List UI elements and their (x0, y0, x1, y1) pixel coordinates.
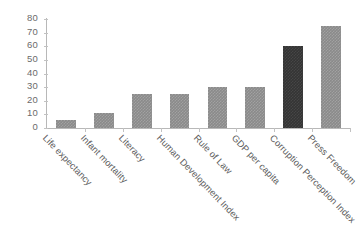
x-axis-tick-mark (274, 128, 275, 132)
x-axis-label: Literacy (116, 133, 146, 164)
bar (170, 94, 190, 128)
x-axis-label: Rule of Law (192, 133, 234, 176)
y-axis-tick-label: 60 (27, 39, 38, 50)
bar (94, 113, 114, 128)
y-axis-tick-label: 40 (27, 67, 38, 78)
x-axis-tick-mark (350, 128, 351, 132)
bar (132, 94, 152, 128)
x-axis-tick-mark (85, 128, 86, 132)
bar-chart: 01020304050607080 Life expectancyInfant … (0, 0, 358, 244)
y-axis-tick-label: 70 (27, 26, 38, 37)
x-axis-tick-mark (123, 128, 124, 132)
y-axis-tick-label: 20 (27, 94, 38, 105)
y-axis-tick-label: 30 (27, 80, 38, 91)
y-axis-tick-mark (44, 128, 48, 129)
bar (321, 26, 341, 128)
x-axis-tick-mark (236, 128, 237, 132)
plot-area (47, 19, 350, 128)
x-axis-tick-mark (312, 128, 313, 132)
bar (208, 87, 228, 128)
x-axis-tick-mark (199, 128, 200, 132)
bar (245, 87, 265, 128)
y-axis-tick-label: 0 (33, 121, 38, 132)
bar (56, 120, 76, 128)
x-axis-tick-mark (161, 128, 162, 132)
bar (283, 46, 303, 128)
y-axis-tick-label: 80 (27, 12, 38, 23)
y-axis-tick-label: 50 (27, 53, 38, 64)
y-axis-tick-label: 10 (27, 107, 38, 118)
